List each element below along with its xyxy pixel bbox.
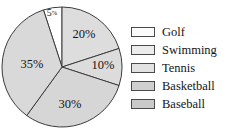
- pie-chart-area: 5%20%10%30%35%: [0, 0, 130, 135]
- legend-item-tennis: Tennis: [131, 59, 231, 77]
- legend-label-golf: Golf: [162, 26, 185, 39]
- legend-item-basketball: Basketball: [131, 77, 231, 95]
- legend-label-basketball: Basketball: [162, 80, 215, 93]
- pie-slice-label-baseball: 35%: [21, 57, 44, 71]
- legend-item-swimming: Swimming: [131, 41, 231, 59]
- pie-slice-label-basketball: 30%: [59, 97, 82, 111]
- legend-swatch-baseball: [131, 99, 155, 109]
- chart-legend: GolfSwimmingTennisBasketballBaseball: [131, 23, 231, 123]
- legend-item-baseball: Baseball: [131, 95, 231, 113]
- legend-swatch-golf: [131, 27, 155, 37]
- pie-slice-label-tennis: 10%: [92, 58, 115, 72]
- legend-label-baseball: Baseball: [162, 98, 205, 111]
- pie-chart-svg: 5%20%10%30%35%: [0, 0, 130, 135]
- legend-swatch-tennis: [131, 63, 155, 73]
- legend-item-golf: Golf: [131, 23, 231, 41]
- legend-swatch-basketball: [131, 81, 155, 91]
- legend-label-swimming: Swimming: [162, 44, 217, 57]
- legend-label-tennis: Tennis: [162, 62, 195, 75]
- legend-swatch-swimming: [131, 45, 155, 55]
- pie-slice-label-swimming: 20%: [73, 27, 96, 41]
- pie-chart-figure: 5%20%10%30%35% GolfSwimmingTennisBasketb…: [0, 0, 231, 135]
